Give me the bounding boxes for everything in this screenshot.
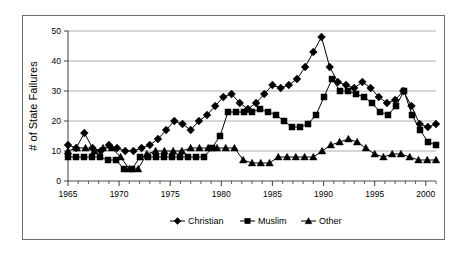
marker-triangle — [362, 144, 370, 151]
marker-diamond — [146, 141, 154, 149]
marker-square — [233, 109, 239, 115]
series-other — [64, 135, 440, 172]
x-axis-tick-label: 1975 — [161, 189, 180, 199]
marker-square — [337, 88, 343, 94]
x-axis-tick-label: 1985 — [263, 189, 282, 199]
marker-square — [81, 154, 87, 160]
series-christian — [64, 33, 440, 155]
marker-square — [289, 124, 295, 130]
marker-square — [185, 154, 191, 160]
marker-square — [177, 154, 183, 160]
y-axis-tick-label: 50 — [52, 26, 62, 36]
marker-square — [345, 88, 351, 94]
marker-square — [73, 154, 79, 160]
marker-triangle — [239, 156, 247, 163]
marker-square — [425, 139, 431, 145]
series-line — [68, 37, 436, 151]
marker-square — [305, 121, 311, 127]
marker-square — [153, 154, 159, 160]
marker-square — [97, 154, 103, 160]
x-axis-tick-label: 1965 — [59, 189, 78, 199]
marker-square — [433, 142, 439, 148]
chart-figure: 0102030405019651970197519801985199019952… — [0, 0, 467, 257]
legend-label: Other — [319, 216, 342, 226]
marker-square — [369, 100, 375, 106]
marker-diamond — [342, 81, 350, 89]
marker-square — [409, 112, 415, 118]
marker-square — [193, 154, 199, 160]
chart-legend: ChristianMuslimOther — [170, 216, 342, 226]
marker-square — [385, 112, 391, 118]
y-axis-tick-label: 20 — [52, 116, 62, 126]
marker-square — [161, 154, 167, 160]
marker-diamond — [130, 147, 138, 155]
marker-square — [245, 218, 250, 223]
marker-diamond — [424, 123, 432, 131]
marker-diamond — [318, 33, 326, 41]
marker-square — [329, 76, 335, 82]
y-axis-tick-label: 30 — [52, 86, 62, 96]
marker-square — [257, 106, 263, 112]
y-axis-tick-label: 40 — [52, 56, 62, 66]
marker-square — [377, 109, 383, 115]
marker-square — [281, 118, 287, 124]
y-axis-tick-label: 0 — [56, 176, 61, 186]
marker-square — [201, 154, 207, 160]
marker-square — [169, 154, 175, 160]
marker-square — [361, 94, 367, 100]
chart-plot-area: 0102030405019651970197519801985199019952… — [23, 16, 444, 239]
marker-diamond — [359, 78, 367, 86]
marker-triangle — [345, 135, 353, 142]
marker-square — [401, 88, 407, 94]
legend-label: Muslim — [258, 216, 287, 226]
marker-diamond — [121, 147, 129, 155]
y-axis-tick-label: 10 — [52, 146, 62, 156]
marker-square — [393, 103, 399, 109]
marker-square — [249, 109, 255, 115]
marker-diamond — [309, 48, 317, 56]
marker-diamond — [293, 75, 301, 83]
marker-square — [105, 157, 111, 163]
legend-label: Christian — [188, 216, 224, 226]
marker-diamond — [174, 217, 181, 224]
marker-square — [417, 127, 423, 133]
series-line — [68, 79, 436, 169]
marker-square — [297, 124, 303, 130]
marker-square — [65, 154, 71, 160]
x-axis-tick-label: 1980 — [212, 189, 231, 199]
marker-square — [265, 109, 271, 115]
marker-diamond — [326, 63, 334, 71]
marker-square — [137, 154, 143, 160]
marker-diamond — [285, 81, 293, 89]
chart-frame: 0102030405019651970197519801985199019952… — [22, 15, 445, 240]
marker-square — [89, 154, 95, 160]
marker-diamond — [383, 99, 391, 107]
x-axis-tick-label: 1990 — [314, 189, 333, 199]
marker-square — [321, 94, 327, 100]
marker-square — [225, 109, 231, 115]
marker-square — [273, 112, 279, 118]
marker-square — [353, 91, 359, 97]
marker-diamond — [301, 63, 309, 71]
marker-square — [217, 133, 223, 139]
marker-diamond — [80, 129, 88, 137]
marker-triangle — [318, 147, 326, 154]
y-axis-title: # of State Failures — [27, 61, 39, 151]
x-axis-tick-label: 2000 — [416, 189, 435, 199]
x-axis-tick-label: 1995 — [365, 189, 384, 199]
marker-square — [313, 112, 319, 118]
x-axis-tick-label: 1970 — [110, 189, 129, 199]
marker-square — [241, 109, 247, 115]
